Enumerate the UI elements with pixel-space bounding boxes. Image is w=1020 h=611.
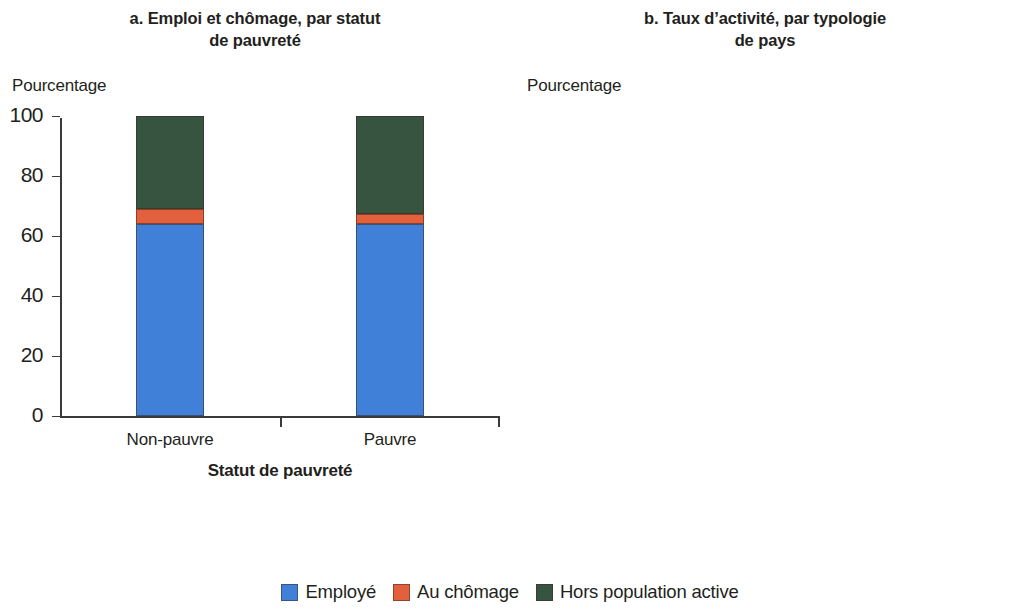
legend-item-unemployed[interactable]: Au chômage [393, 581, 519, 603]
panel-a-y-axis-line [60, 118, 62, 418]
panel-a-x-axis-title: Statut de pauvreté [60, 461, 500, 481]
x-axis-category-label: Pauvre [300, 430, 480, 450]
y-axis-tick-label: 0 [32, 403, 43, 427]
legend-swatch-icon [393, 584, 410, 601]
panel-a-plot-area: 020406080100Non-pauvrePauvre [60, 118, 500, 418]
bar-segment-hors-population-active[interactable] [356, 116, 424, 214]
panel-b-title: b. Taux d’activité, par typologie de pay… [550, 8, 980, 52]
legend-swatch-icon [281, 584, 298, 601]
figure-root: a. Emploi et chômage, par statut de pauv… [0, 0, 1020, 611]
x-axis-tick [498, 418, 500, 427]
panel-a: a. Emploi et chômage, par statut de pauv… [0, 0, 510, 560]
bar-segment-au-ch-mage[interactable] [136, 209, 204, 224]
bar-segment-employ[interactable] [136, 224, 204, 416]
panel-a-y-axis-unit: Pourcentage [12, 76, 106, 96]
bar-segment-hors-population-active[interactable] [136, 116, 204, 209]
x-axis-category-label: Non-pauvre [80, 430, 260, 450]
legend-swatch-icon [536, 584, 553, 601]
y-axis-tick-label: 60 [21, 223, 43, 247]
bar-segment-employ[interactable] [356, 224, 424, 416]
y-axis-tick-label: 100 [9, 103, 43, 127]
legend-item-label: Employé [305, 581, 376, 603]
legend-item-inactive[interactable]: Hors population active [536, 581, 739, 603]
y-axis-tick-label: 40 [21, 283, 43, 307]
y-axis-tick: 0 [52, 416, 60, 418]
legend-item-label: Hors population active [560, 581, 739, 603]
bar-segment-au-ch-mage[interactable] [356, 214, 424, 225]
panel-a-title: a. Emploi et chômage, par statut de pauv… [40, 8, 470, 52]
y-axis-tick: 40 [52, 296, 60, 298]
y-axis-tick: 20 [52, 356, 60, 358]
legend-item-label: Au chômage [417, 581, 519, 603]
y-axis-tick: 60 [52, 236, 60, 238]
bar[interactable] [356, 116, 424, 416]
y-axis-tick-label: 80 [21, 163, 43, 187]
legend-item-employed[interactable]: Employé [281, 581, 376, 603]
bar[interactable] [136, 116, 204, 416]
y-axis-tick: 100 [52, 116, 60, 118]
x-axis-tick [280, 418, 282, 427]
y-axis-tick: 80 [52, 176, 60, 178]
y-axis-tick-label: 20 [21, 343, 43, 367]
panel-b: b. Taux d’activité, par typologie de pay… [510, 0, 1020, 560]
legend: EmployéAu chômageHors population active [0, 581, 1020, 603]
panel-b-y-axis-unit: Pourcentage [527, 76, 621, 96]
